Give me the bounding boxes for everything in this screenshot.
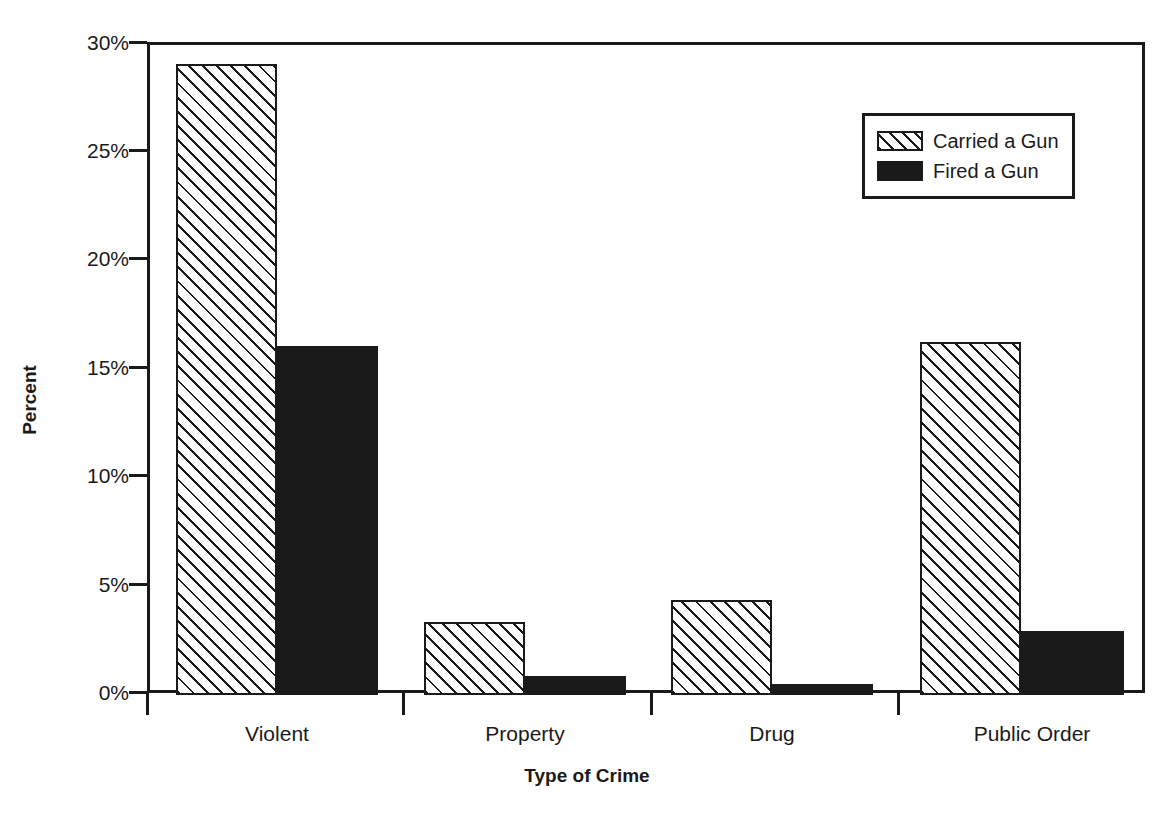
y-tick-label-0: 0% bbox=[99, 680, 129, 706]
y-tick-label-15: 15% bbox=[87, 355, 129, 381]
y-tick-label-5: 5% bbox=[99, 572, 129, 598]
y-tick-mark-20 bbox=[129, 257, 147, 260]
legend-label-carried-a-gun: Carried a Gun bbox=[933, 130, 1059, 153]
y-tick-label-20: 20% bbox=[87, 246, 129, 272]
bar-property-carried-a-gun bbox=[424, 622, 525, 695]
x-axis-label-violent: Violent bbox=[197, 722, 357, 746]
y-tick-5: 5% bbox=[0, 572, 147, 598]
y-tick-mark-30 bbox=[129, 41, 147, 44]
x-tick-mark-3 bbox=[897, 693, 900, 715]
y-tick-25: 25% bbox=[0, 138, 147, 164]
y-tick-label-10: 10% bbox=[87, 463, 129, 489]
x-axis-label-property: Property bbox=[445, 722, 605, 746]
x-tick-mark-2 bbox=[650, 693, 653, 715]
bar-chart: 30% 25% 20% 15% 10% 5% 0% Percent bbox=[0, 0, 1174, 814]
y-tick-20: 20% bbox=[0, 246, 147, 272]
y-tick-mark-15 bbox=[129, 366, 147, 369]
y-tick-0: 0% bbox=[0, 680, 147, 706]
y-tick-10: 10% bbox=[0, 463, 147, 489]
bar-violent-carried-a-gun bbox=[176, 64, 277, 695]
legend-item-carried-a-gun: Carried a Gun bbox=[877, 126, 1058, 156]
legend-label-fired-a-gun: Fired a Gun bbox=[933, 160, 1039, 183]
x-axis-label-drug: Drug bbox=[692, 722, 852, 746]
y-tick-30: 30% bbox=[0, 30, 147, 56]
legend-swatch-solid-icon bbox=[877, 161, 923, 181]
x-tick-mark-1 bbox=[402, 693, 405, 715]
bar-violent-fired-a-gun bbox=[277, 346, 378, 695]
bar-property-fired-a-gun bbox=[525, 676, 626, 695]
bar-drug-carried-a-gun bbox=[671, 600, 772, 695]
legend-item-fired-a-gun: Fired a Gun bbox=[877, 156, 1058, 186]
legend-swatch-hatched-icon bbox=[877, 131, 923, 151]
y-tick-mark-25 bbox=[129, 149, 147, 152]
y-tick-label-25: 25% bbox=[87, 138, 129, 164]
y-axis-title: Percent bbox=[10, 340, 50, 460]
x-axis-title: Type of Crime bbox=[0, 765, 1174, 787]
bar-drug-fired-a-gun bbox=[772, 684, 873, 695]
x-tick-mark-0 bbox=[146, 693, 149, 715]
y-tick-label-30: 30% bbox=[87, 30, 129, 56]
y-tick-mark-10 bbox=[129, 474, 147, 477]
y-tick-mark-0 bbox=[129, 691, 147, 694]
bar-public-order-fired-a-gun bbox=[1021, 631, 1124, 695]
bar-public-order-carried-a-gun bbox=[920, 342, 1021, 695]
y-axis-title-text: Percent bbox=[19, 365, 41, 435]
x-axis-label-public-order: Public Order bbox=[942, 722, 1122, 746]
legend: Carried a Gun Fired a Gun bbox=[862, 113, 1075, 199]
y-tick-mark-5 bbox=[129, 583, 147, 586]
